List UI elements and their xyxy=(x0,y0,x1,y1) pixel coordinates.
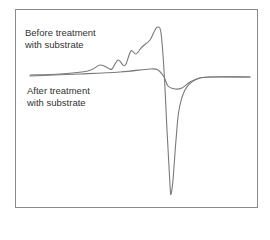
before-label-line2: with substrate xyxy=(25,39,96,51)
before-label-line1: Before treatment xyxy=(25,27,96,39)
after-label-line2: with substrate xyxy=(27,97,90,109)
after-label-line1: After treatment xyxy=(27,85,90,97)
after-treatment-label: After treatment with substrate xyxy=(27,85,90,108)
before-treatment-curve xyxy=(30,27,250,195)
before-treatment-label: Before treatment with substrate xyxy=(25,27,96,50)
